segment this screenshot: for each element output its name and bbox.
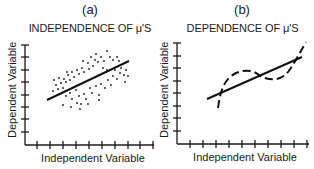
figure-canvas <box>0 0 314 169</box>
panel-b-axes <box>173 43 309 148</box>
panel-a-axes <box>21 45 154 149</box>
panel-a-regression-line <box>47 61 129 100</box>
